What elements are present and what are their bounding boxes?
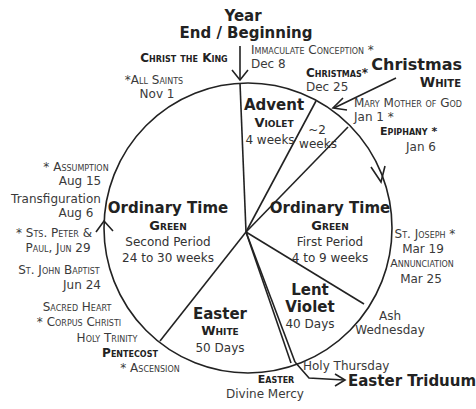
st-john-baptist-date: Jun 24 — [63, 279, 101, 293]
ash-wednesday-label-2: Wednesday — [355, 324, 424, 338]
pentecost-label: Pentecost — [102, 347, 158, 361]
ordinary-first-period: First Period — [297, 236, 364, 250]
ash-wednesday-label-1: Ash — [379, 310, 401, 324]
lent-duration: 40 Days — [285, 318, 334, 332]
all-saints-date: Nov 1 — [140, 88, 175, 102]
annunciation-date: Mar 25 — [400, 273, 442, 287]
immaculate-conception-label: Immaculate Conception * — [251, 44, 374, 58]
immaculate-conception-date: Dec 8 — [251, 58, 286, 72]
st-joseph-label: St. Joseph * — [395, 228, 456, 242]
easter-duration: 50 Days — [195, 342, 244, 356]
christmas-feast-label: Christmas* — [306, 67, 368, 81]
epiphany-label: Epiphany * — [380, 126, 437, 139]
easter-title: Easter — [193, 306, 247, 323]
assumption-label: * Assumption — [43, 161, 108, 175]
christmas-color-label: White — [420, 74, 461, 90]
christmas-season-label: Christmas — [371, 56, 462, 74]
christmas-duration-1: ~2 — [308, 124, 326, 138]
advent-color: Violet — [254, 116, 293, 131]
all-saints-label: *All Saints — [125, 74, 183, 88]
holy-trinity-label: Holy Trinity — [77, 332, 138, 346]
arrow-christmas-icon — [333, 98, 347, 110]
divider-triduum-b — [246, 232, 295, 362]
sacred-heart-label: Sacred Heart — [43, 301, 112, 315]
ordinary-second-period: Second Period — [125, 236, 210, 250]
advent-title: Advent — [244, 97, 304, 114]
liturgical-year-diagram: Year End / Beginning Christ the King *Al… — [0, 0, 476, 409]
annunciation-label: Annunciation — [390, 258, 454, 271]
end-beginning-label: End / Beginning — [180, 25, 313, 42]
lent-color: Violet — [285, 299, 334, 316]
divine-mercy-label: Divine Mercy — [226, 388, 304, 402]
easter-color: White — [201, 324, 239, 339]
sts-peter-paul-label-1: * Sts. Peter & — [16, 227, 92, 241]
christmas-duration-2: weeks — [299, 138, 337, 152]
advent-duration: 4 weeks — [245, 134, 294, 148]
ordinary-first-title: Ordinary Time — [270, 200, 390, 217]
year-label: Year — [224, 8, 261, 25]
st-joseph-date: Mar 19 — [402, 243, 444, 257]
easter-feast-label: Easter — [258, 374, 295, 387]
sts-peter-paul-label-2: Paul, Jun 29 — [25, 242, 90, 256]
ordinary-second-color: Green — [149, 219, 186, 234]
ordinary-first-duration: 4 to 9 weeks — [292, 252, 369, 266]
ordinary-second-duration: 24 to 30 weeks — [122, 252, 214, 266]
transfiguration-label: Transfiguration — [11, 193, 101, 207]
ordinary-second-title: Ordinary Time — [108, 200, 228, 217]
mary-mother-of-god-date: Jan 1 * — [354, 111, 394, 125]
st-john-baptist-label: St. John Baptist — [18, 264, 100, 278]
christ-the-king-label: Christ the King — [140, 52, 227, 66]
corpus-christi-label: * Corpus Christi — [37, 316, 121, 330]
lent-title: Lent — [291, 282, 329, 299]
epiphany-date: Jan 6 — [406, 141, 436, 155]
assumption-date: Aug 15 — [59, 175, 102, 189]
easter-triduum-label: Easter Triduum — [348, 373, 476, 390]
ascension-label: * Ascension — [120, 362, 179, 376]
transfiguration-date: Aug 6 — [59, 207, 94, 221]
mary-mother-of-god-label: Mary Mother of God — [354, 97, 462, 111]
ordinary-first-color: Green — [311, 219, 348, 234]
christmas-feast-date: Dec 25 — [306, 81, 348, 95]
